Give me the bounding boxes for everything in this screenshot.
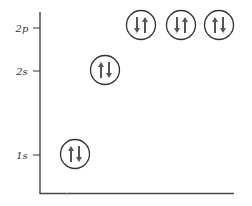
level-label: 2s <box>15 66 28 77</box>
orbital-box <box>167 11 196 40</box>
orbital-box <box>61 140 90 169</box>
orbital-circle <box>205 11 234 40</box>
orbital-circle <box>127 11 156 40</box>
orbital-circle <box>91 56 120 85</box>
orbital-circle <box>61 140 90 169</box>
level-1s: 1s <box>16 140 89 169</box>
level-2s: 2s <box>15 56 119 85</box>
energy-levels: 2p2s1s <box>15 11 234 169</box>
orbital-circle <box>167 11 196 40</box>
level-label: 1s <box>16 150 28 161</box>
orbital-box <box>127 11 156 40</box>
orbital-box <box>91 56 120 85</box>
level-2p: 2p <box>15 11 234 40</box>
orbital-box <box>205 11 234 40</box>
level-label: 2p <box>15 23 29 34</box>
orbital-diagram: 2p2s1s <box>0 0 252 206</box>
